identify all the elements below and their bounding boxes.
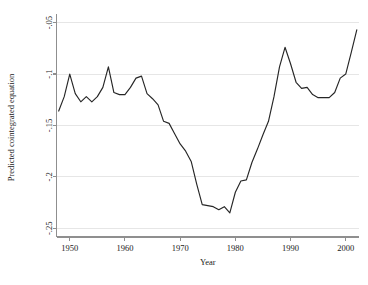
- gridlines: [57, 23, 360, 229]
- y-tick-label-3: -.2: [45, 172, 55, 181]
- x-tick-label-5: 2000: [337, 243, 354, 253]
- x-tick-label-0: 1950: [61, 243, 78, 253]
- line-chart: -.05-.1-.15-.2-.25 195019601970198019902…: [0, 0, 368, 285]
- y-tick-label-2: -.15: [45, 119, 55, 132]
- y-axis-title: Predicted cointegrated equation: [6, 73, 16, 181]
- y-tick-label-1: -.1: [45, 69, 55, 78]
- x-axis-title: Year: [200, 257, 216, 267]
- chart-figure: -.05-.1-.15-.2-.25 195019601970198019902…: [0, 0, 368, 285]
- x-tick-label-1: 1960: [116, 243, 133, 253]
- data-series-group: [59, 30, 357, 213]
- y-tick-label-4: -.25: [45, 222, 55, 235]
- x-tick-label-2: 1970: [172, 243, 189, 253]
- x-tick-label-4: 1990: [282, 243, 299, 253]
- x-tick-label-3: 1980: [227, 243, 244, 253]
- x-axis-ticks: 195019601970198019902000: [61, 237, 354, 253]
- y-tick-label-0: -.05: [45, 16, 55, 29]
- y-axis-ticks: -.05-.1-.15-.2-.25: [45, 16, 57, 235]
- series-line-predicted-cointegrated-equation: [59, 30, 357, 213]
